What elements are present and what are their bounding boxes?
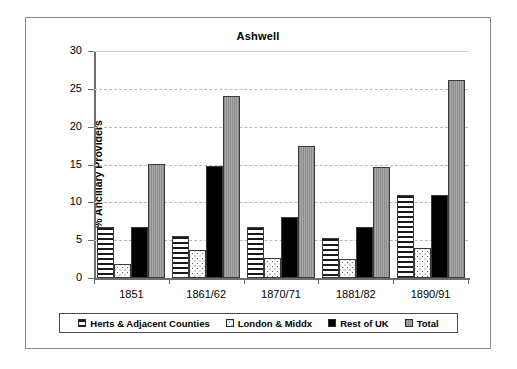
bar[interactable] <box>172 236 189 278</box>
legend-item[interactable]: Herts & Adjacent Counties <box>78 318 209 329</box>
bar[interactable] <box>97 227 114 278</box>
y-tick-mark <box>88 127 94 128</box>
legend-swatch-icon <box>78 319 86 327</box>
legend-swatch-icon <box>328 319 336 327</box>
bar-group <box>247 51 315 278</box>
x-tick-label: 1861/62 <box>166 288 246 300</box>
y-tick-mark <box>88 89 94 90</box>
legend-swatch-icon <box>405 319 413 327</box>
bar[interactable] <box>356 227 373 278</box>
bar[interactable] <box>264 258 281 278</box>
x-axis-line <box>94 278 470 280</box>
y-tick-mark <box>88 165 94 166</box>
x-tick-mark <box>244 278 245 284</box>
x-tick-label: 1851 <box>91 288 171 300</box>
x-tick-label: 1881/82 <box>316 288 396 300</box>
legend-swatch-icon <box>226 319 234 327</box>
chart-frame: Ashwell % Ancillary Providers Herts & Ad… <box>25 17 491 349</box>
bar[interactable] <box>148 164 165 278</box>
x-tick-mark <box>318 278 319 284</box>
bar[interactable] <box>223 96 240 278</box>
y-tick-label: 10 <box>52 195 82 207</box>
x-tick-mark <box>468 278 469 284</box>
legend-label: Total <box>417 318 439 329</box>
bar[interactable] <box>131 227 148 278</box>
x-tick-label: 1890/91 <box>391 288 471 300</box>
x-tick-mark <box>393 278 394 284</box>
legend-item[interactable]: Total <box>405 318 439 329</box>
bar[interactable] <box>414 248 431 278</box>
plot-area <box>94 51 468 278</box>
x-tick-mark <box>169 278 170 284</box>
y-tick-label: 0 <box>52 271 82 283</box>
x-tick-label: 1870/71 <box>241 288 321 300</box>
bar[interactable] <box>298 146 315 278</box>
x-tick-mark <box>94 278 95 284</box>
bar[interactable] <box>281 217 298 278</box>
y-tick-mark <box>88 51 94 52</box>
legend-label: Herts & Adjacent Counties <box>90 318 209 329</box>
y-tick-label: 30 <box>52 44 82 56</box>
y-tick-label: 15 <box>52 158 82 170</box>
bar[interactable] <box>206 166 223 278</box>
chart-legend: Herts & Adjacent CountiesLondon & MiddxR… <box>59 313 458 333</box>
y-tick-mark <box>88 202 94 203</box>
y-tick-label: 25 <box>52 82 82 94</box>
bar[interactable] <box>373 167 390 278</box>
bar[interactable] <box>189 250 206 278</box>
bar[interactable] <box>431 195 448 278</box>
bar[interactable] <box>114 264 131 278</box>
legend-label: Rest of UK <box>340 318 389 329</box>
bar[interactable] <box>448 80 465 278</box>
bar[interactable] <box>339 259 356 278</box>
y-tick-label: 20 <box>52 120 82 132</box>
y-tick-mark <box>88 240 94 241</box>
bar[interactable] <box>397 195 414 278</box>
bar-group <box>97 51 165 278</box>
bar[interactable] <box>322 238 339 278</box>
legend-item[interactable]: London & Middx <box>226 318 312 329</box>
bar-group <box>322 51 390 278</box>
legend-label: London & Middx <box>238 318 312 329</box>
bar-group <box>172 51 240 278</box>
chart-title: Ashwell <box>26 30 490 42</box>
y-tick-label: 5 <box>52 233 82 245</box>
bar-group <box>397 51 465 278</box>
legend-item[interactable]: Rest of UK <box>328 318 389 329</box>
bar[interactable] <box>247 227 264 278</box>
